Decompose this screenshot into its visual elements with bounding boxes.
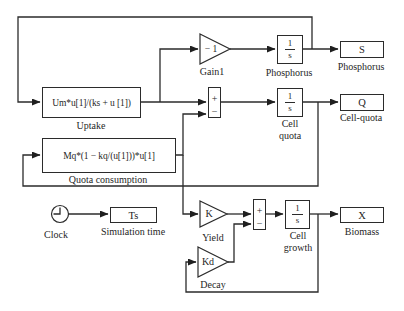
plus-sign: + xyxy=(254,206,265,216)
cell-growth-integrator-block: 1 s xyxy=(285,200,310,229)
biomass-outport-label: Biomass xyxy=(345,226,379,238)
decay-gain-value: Kd xyxy=(199,257,217,267)
wire-quota-consumption-to-sum-minus xyxy=(176,114,206,155)
uptake-block: Um*u[1]/(ks + u [1]) xyxy=(42,87,141,118)
clock-icon xyxy=(52,206,69,223)
quota-consumption-block: Mq*(1 − kq/(u[1]))*u[1] xyxy=(42,138,176,173)
integrator-fraction: 1 s xyxy=(285,39,296,60)
quota-sum-block: + − xyxy=(208,87,221,118)
simulation-time-label: Simulation time xyxy=(101,226,165,238)
minus-sign: − xyxy=(254,219,265,229)
minus-sign: − xyxy=(209,107,220,117)
uptake-label: Uptake xyxy=(77,120,106,132)
cell-quota-outport-block: Q xyxy=(340,94,384,111)
fraction-numerator: 1 xyxy=(292,204,303,215)
integrator-fraction: 1 s xyxy=(292,204,303,225)
simulation-time-block: Ts xyxy=(110,207,157,223)
cell-quota-integrator-label: Cell quota xyxy=(279,118,301,142)
fraction-numerator: 1 xyxy=(285,39,296,50)
label-line-1: Cell xyxy=(284,230,312,242)
decay-gain-label: Decay xyxy=(200,279,226,291)
cell-growth-integrator-label: Cell growth xyxy=(284,230,312,254)
simulink-block-diagram: Um*u[1]/(ks + u [1]) Mq*(1 − kq/(u[1]))*… xyxy=(0,0,404,311)
integrator-fraction: 1 s xyxy=(285,92,296,113)
label-line-1: Cell xyxy=(279,118,301,130)
label-line-2: growth xyxy=(284,242,312,254)
cell-quota-integrator-block: 1 s xyxy=(277,88,303,117)
gain1-label: Gain1 xyxy=(200,66,224,78)
phosphorus-integrator-label: Phosphorus xyxy=(266,67,313,79)
wire-quota-consumption-to-yield xyxy=(183,155,198,214)
fraction-denominator: s xyxy=(292,215,303,225)
fraction-denominator: s xyxy=(285,103,296,113)
phosphorus-integrator-block: 1 s xyxy=(277,35,303,64)
quota-consumption-label: Quota consumption xyxy=(69,174,148,186)
plus-sign: + xyxy=(209,94,220,104)
phosphorus-outport-label: Phosphorus xyxy=(338,61,385,73)
phosphorus-outport-block: S xyxy=(340,41,384,58)
yield-gain-value: K xyxy=(200,209,218,219)
biomass-outport-block: X xyxy=(340,207,384,223)
wire-uptake-to-gain1 xyxy=(160,49,198,102)
fraction-denominator: s xyxy=(285,50,296,60)
yield-gain-label: Yield xyxy=(202,232,224,244)
gain1-value: − 1 xyxy=(200,44,222,54)
fraction-numerator: 1 xyxy=(285,92,296,103)
wire-decay-to-growth-sum xyxy=(228,224,251,262)
label-line-2: quota xyxy=(279,130,301,142)
clock-label: Clock xyxy=(44,229,68,241)
growth-sum-block: + − xyxy=(253,199,266,230)
cell-quota-outport-label: Cell-quota xyxy=(340,112,382,124)
